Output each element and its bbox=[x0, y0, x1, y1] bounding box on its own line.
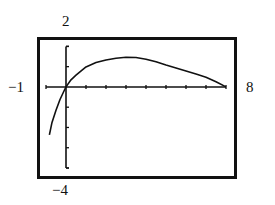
y-min-label: −4 bbox=[52, 183, 68, 198]
y-max-label: 2 bbox=[62, 14, 70, 29]
plot-area bbox=[0, 0, 275, 205]
axes bbox=[46, 46, 226, 168]
x-max-label: 8 bbox=[246, 80, 254, 95]
x-min-label: −1 bbox=[8, 80, 24, 95]
function-curve bbox=[49, 57, 226, 135]
